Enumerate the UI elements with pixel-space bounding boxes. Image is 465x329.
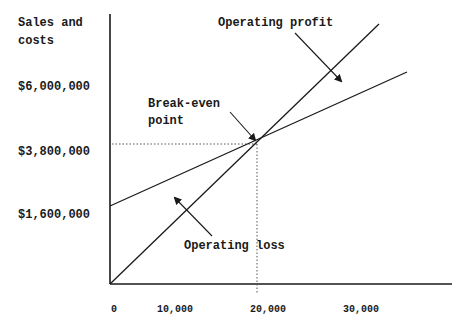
x-tick-label: 30,000 (343, 304, 379, 315)
x-tick-label: 10,000 (157, 304, 193, 315)
operating-profit-label: Operating profit (218, 16, 333, 30)
break-even-label-line1: Break-even (148, 97, 220, 111)
y-tick-label: $3,800,000 (18, 145, 90, 159)
operating-loss-label: Operating loss (184, 239, 285, 253)
break-even-chart: Sales and costs $6,000,000 $3,800,000 $1… (0, 0, 465, 329)
y-axis-label-line2: costs (18, 34, 54, 48)
operating-profit-arrow (295, 33, 341, 81)
break-even-arrow (230, 112, 255, 140)
y-tick-label: $1,600,000 (18, 208, 90, 222)
y-axis-label-line1: Sales and (18, 16, 83, 30)
break-even-label-line2: point (148, 114, 184, 128)
total-costs-line (110, 72, 407, 206)
x-tick-label: 0 (111, 304, 117, 315)
y-tick-label: $6,000,000 (18, 80, 90, 94)
x-tick-label: 20,000 (250, 304, 286, 315)
